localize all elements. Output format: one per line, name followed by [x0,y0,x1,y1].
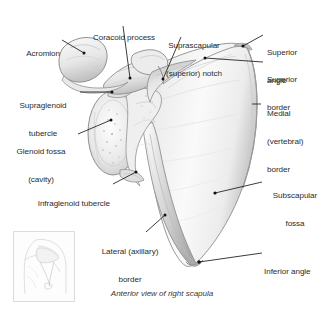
label-superior-border-line-1: Superior [267,75,323,84]
label-subscapular-fossa-line-2: fossa [266,219,324,228]
label-supraglenoid-tubercle-line-1: Supraglenoid [8,101,78,110]
label-infraglenoid-tubercle-line-1: Infraglenoid tubercle [16,199,110,208]
label-acromion-line-1: Acromion [4,49,60,58]
anchor-subscapular-fossa [213,191,216,194]
label-subscapular-fossa-line-1: Subscapular [266,191,324,200]
anchor-supraglenoid-tubercle [111,91,114,94]
anchor-coracoid-process [129,77,132,80]
label-inferior-angle-line-1: Inferior angle [264,267,322,276]
label-inferior-angle: Inferior angle [264,248,322,295]
infraglenoid-tubercle [120,169,144,182]
scapula-figure: Acromion Coracoid process Suprascapular … [0,0,324,319]
anchor-superior-angle [241,44,244,47]
label-glenoid-fossa-line-1: Glenoid fossa [6,147,76,156]
figure-caption: Anterior view of right scapula [0,289,324,298]
label-infraglenoid-tubercle: Infraglenoid tubercle [16,180,110,227]
label-medial-border-line-2: (vertebral) [267,137,323,146]
label-lateral-border-line-2: border [96,275,164,284]
label-suprascapular-notch-line-2: (superior) notch [155,69,233,78]
label-suprascapular-notch: Suprascapular (superior) notch [155,22,233,97]
anchor-infraglenoid-tubercle [135,171,138,174]
label-lateral-border-line-1: Lateral (axillary) [96,247,164,256]
label-acromion: Acromion [4,30,60,77]
label-subscapular-fossa: Subscapular fossa [266,172,324,247]
label-medial-border-line-1: Medial [267,109,323,118]
label-suprascapular-notch-line-1: Suprascapular [155,41,233,50]
anchor-lateral-border [164,214,167,217]
anchor-glenoid-fossa [110,119,113,122]
anchor-inferior-angle [197,260,201,264]
